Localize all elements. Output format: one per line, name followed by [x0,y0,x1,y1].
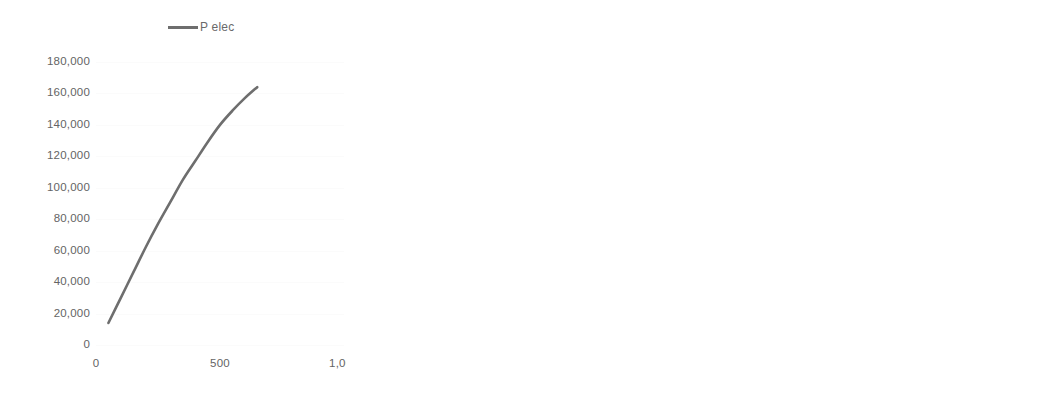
legend-line-swatch-icon [168,26,198,29]
charts-row: P elec 020,00040,00060,00080,000100,0001… [0,0,1060,396]
y-tick-label: 80,000 [54,213,90,225]
chart-panel-eta-exer: eta_exer 0.60.650.70.750.80.850.90.95 02… [682,0,1060,396]
y-tick-label: 20,000 [54,308,90,320]
x-tick-label: 0 [93,358,100,370]
y-tick-label: 140,000 [47,119,90,131]
x-axis-labels-p-elec: 05001,000 [96,358,344,378]
chart-panel-p-elec: P elec 020,00040,00060,00080,000100,0001… [0,0,346,396]
x-tick-label: 500 [210,358,230,370]
y-tick-label: 40,000 [54,276,90,288]
y-tick-label: 60,000 [54,245,90,257]
plot-area-p-elec [96,62,344,345]
y-tick-label: 180,000 [47,56,90,68]
y-tick-label: 160,000 [47,88,90,100]
legend-label-p-elec: P elec [200,20,234,34]
legend-p-elec: P elec [168,20,234,34]
series-line-p-elec [96,62,344,345]
y-tick-label: 100,000 [47,182,90,194]
y-tick-label: 120,000 [47,151,90,163]
y-axis-labels-p-elec: 020,00040,00060,00080,000100,000120,0001… [18,62,90,345]
chart-panel-epsi: epsi 0.30.350.40.450.50.55 0200400600800 [346,0,682,396]
gridline [96,345,344,346]
y-tick-label: 0 [83,339,90,351]
